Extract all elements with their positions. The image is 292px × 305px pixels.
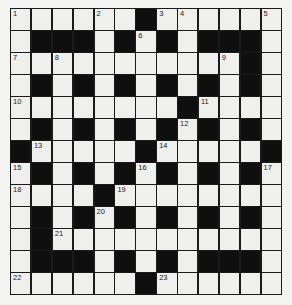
answer-cell[interactable] [136,207,155,228]
answer-cell[interactable] [199,9,218,30]
answer-cell[interactable] [220,75,239,96]
answer-cell[interactable] [220,207,239,228]
answer-cell[interactable] [95,53,114,74]
answer-cell[interactable] [11,119,30,140]
answer-cell[interactable] [53,207,72,228]
answer-cell[interactable] [220,9,239,30]
answer-cell[interactable]: 10 [11,97,30,118]
answer-cell[interactable] [74,97,93,118]
answer-cell[interactable]: 6 [136,31,155,52]
answer-cell[interactable] [115,53,134,74]
answer-cell[interactable] [11,229,30,250]
answer-cell[interactable] [95,273,114,294]
answer-cell[interactable] [241,97,260,118]
answer-cell[interactable] [220,141,239,162]
answer-cell[interactable] [95,163,114,184]
answer-cell[interactable] [220,229,239,250]
answer-cell[interactable] [178,273,197,294]
answer-cell[interactable] [95,31,114,52]
answer-cell[interactable] [157,229,176,250]
answer-cell[interactable] [262,229,281,250]
answer-cell[interactable] [32,273,51,294]
answer-cell[interactable]: 5 [262,9,281,30]
answer-cell[interactable]: 11 [199,97,218,118]
answer-cell[interactable] [53,97,72,118]
answer-cell[interactable] [53,75,72,96]
answer-cell[interactable] [95,97,114,118]
answer-cell[interactable] [32,97,51,118]
answer-cell[interactable] [220,273,239,294]
answer-cell[interactable] [32,185,51,206]
answer-cell[interactable] [178,141,197,162]
answer-cell[interactable]: 7 [11,53,30,74]
answer-cell[interactable] [262,119,281,140]
answer-cell[interactable]: 16 [136,163,155,184]
answer-cell[interactable] [220,185,239,206]
answer-cell[interactable] [136,119,155,140]
answer-cell[interactable] [53,141,72,162]
answer-cell[interactable] [199,273,218,294]
answer-cell[interactable] [199,229,218,250]
answer-cell[interactable]: 22 [11,273,30,294]
answer-cell[interactable]: 19 [115,185,134,206]
answer-cell[interactable] [53,119,72,140]
answer-cell[interactable] [32,9,51,30]
answer-cell[interactable] [178,185,197,206]
answer-cell[interactable] [262,273,281,294]
answer-cell[interactable] [178,229,197,250]
answer-cell[interactable] [262,97,281,118]
answer-cell[interactable] [178,53,197,74]
answer-cell[interactable] [157,97,176,118]
answer-cell[interactable] [262,75,281,96]
answer-cell[interactable] [53,185,72,206]
answer-cell[interactable]: 2 [95,9,114,30]
answer-cell[interactable] [220,119,239,140]
answer-cell[interactable]: 1 [11,9,30,30]
answer-cell[interactable] [95,229,114,250]
answer-cell[interactable] [74,141,93,162]
answer-cell[interactable] [262,207,281,228]
answer-cell[interactable] [53,273,72,294]
answer-cell[interactable] [74,53,93,74]
answer-cell[interactable]: 13 [32,141,51,162]
answer-cell[interactable]: 23 [157,273,176,294]
answer-cell[interactable]: 3 [157,9,176,30]
answer-cell[interactable] [115,97,134,118]
answer-cell[interactable] [241,185,260,206]
answer-cell[interactable] [136,53,155,74]
answer-cell[interactable]: 21 [53,229,72,250]
answer-cell[interactable] [178,251,197,272]
answer-cell[interactable] [136,185,155,206]
answer-cell[interactable]: 18 [11,185,30,206]
answer-cell[interactable] [178,207,197,228]
answer-cell[interactable] [11,207,30,228]
answer-cell[interactable] [136,75,155,96]
answer-cell[interactable] [115,273,134,294]
answer-cell[interactable] [136,251,155,272]
answer-cell[interactable] [199,53,218,74]
answer-cell[interactable] [115,9,134,30]
answer-cell[interactable] [115,229,134,250]
answer-cell[interactable] [95,119,114,140]
answer-cell[interactable]: 15 [11,163,30,184]
answer-cell[interactable] [11,75,30,96]
answer-cell[interactable] [262,31,281,52]
answer-cell[interactable] [178,163,197,184]
answer-cell[interactable]: 17 [262,163,281,184]
answer-cell[interactable]: 12 [178,119,197,140]
answer-cell[interactable] [178,31,197,52]
answer-cell[interactable]: 9 [220,53,239,74]
answer-cell[interactable] [95,141,114,162]
answer-cell[interactable] [136,229,155,250]
answer-cell[interactable] [95,251,114,272]
answer-cell[interactable] [199,185,218,206]
answer-cell[interactable]: 4 [178,9,197,30]
answer-cell[interactable] [241,229,260,250]
answer-cell[interactable] [241,141,260,162]
answer-cell[interactable] [74,9,93,30]
answer-cell[interactable] [241,273,260,294]
answer-cell[interactable] [53,9,72,30]
answer-cell[interactable]: 14 [157,141,176,162]
answer-cell[interactable] [178,75,197,96]
answer-cell[interactable] [262,53,281,74]
